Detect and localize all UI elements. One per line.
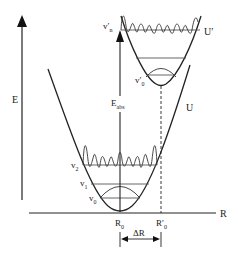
energy-axis [17,15,27,200]
wavefunction-vp0 [146,69,176,78]
ground-state-curve [48,65,190,211]
franck-condon-diagram: E R U v2 v1 v0 U′ v′n v′0 Eabs R0 R′0 [0,0,238,259]
label-vpn: v′n [103,21,112,33]
label-v0: v0 [89,193,97,205]
wavefunction-vpn [121,16,198,33]
energy-axis-label: E [12,94,18,105]
arrow-left-icon [121,236,128,242]
absorption-arrowhead-icon [116,30,124,42]
distance-axis-label: R [220,208,227,219]
ground-curve-label: U [186,102,194,113]
label-Rp0: R′0 [156,218,167,230]
arrow-right-icon [153,236,160,242]
excited-curve-label: U′ [204,26,213,37]
axis-arrowhead-icon [17,15,27,27]
delta-r-label: ΔR [133,228,145,238]
label-vp0: v′0 [135,75,144,87]
label-v2: v2 [71,160,79,172]
label-R0: R0 [115,218,124,230]
label-v1: v1 [80,178,88,190]
